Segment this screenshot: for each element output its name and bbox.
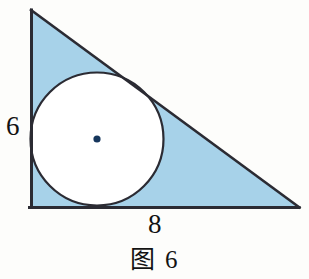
horizontal-leg-length-label: 8 xyxy=(148,211,162,238)
circle-center-dot xyxy=(93,135,100,142)
figure-container: 6 8 图 6 xyxy=(0,0,309,279)
vertical-leg-length-label: 6 xyxy=(6,113,20,140)
figure-caption: 图 6 xyxy=(0,247,309,273)
